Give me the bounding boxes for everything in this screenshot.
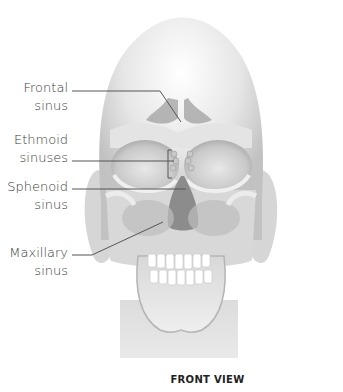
- label-ethmoid-line2: sinuses: [14, 149, 68, 167]
- maxillary-sinus-right: [188, 200, 240, 236]
- label-ethmoid-sinuses: Ethmoid sinuses: [14, 131, 68, 167]
- label-sphenoid-line2: sinus: [7, 196, 68, 214]
- label-frontal-line2: sinus: [24, 97, 68, 115]
- label-ethmoid-line1: Ethmoid: [14, 131, 68, 149]
- label-sphenoid-sinus: Sphenoid sinus: [7, 178, 68, 214]
- label-sphenoid-line1: Sphenoid: [7, 178, 68, 196]
- label-maxillary-line1: Maxillary: [9, 244, 68, 262]
- skull-sinus-diagram: Frontal sinus Ethmoid sinuses Sphenoid s…: [0, 0, 343, 392]
- label-frontal-sinus: Frontal sinus: [24, 79, 68, 115]
- label-maxillary-sinus: Maxillary sinus: [9, 244, 68, 280]
- caption-front-view: FRONT VIEW: [0, 374, 343, 385]
- maxillary-sinus-left: [122, 200, 174, 236]
- label-frontal-line1: Frontal: [24, 79, 68, 97]
- label-maxillary-line2: sinus: [9, 262, 68, 280]
